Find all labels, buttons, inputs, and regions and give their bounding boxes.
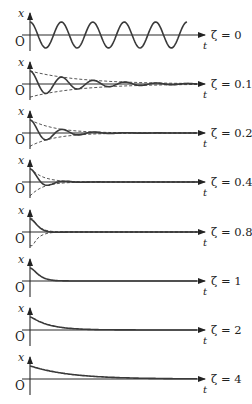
panel-zeta-1: xOtζ = 1 [15, 253, 242, 297]
t-axis-label: t [203, 335, 208, 346]
panel-zeta-0_4: xOtζ = 0.4 [15, 154, 252, 198]
origin-label: O [15, 379, 25, 393]
lower-envelope [30, 182, 198, 196]
upper-envelope [30, 120, 198, 133]
lower-envelope [30, 133, 198, 146]
zeta-label: ζ = 1 [211, 274, 242, 288]
t-axis-label: t [203, 384, 208, 395]
x-axis-label: x [18, 253, 25, 266]
t-axis-label: t [203, 286, 208, 297]
response-curve [30, 317, 197, 330]
zeta-label: ζ = 0.8 [211, 225, 252, 239]
response-curve [30, 268, 197, 281]
damping-response-figure: xOtζ = 0xOtζ = 0.1xOtζ = 0.2xOtζ = 0.4xO… [0, 0, 252, 404]
panel-zeta-0_2: xOtζ = 0.2 [15, 105, 252, 149]
zeta-label: ζ = 4 [211, 372, 242, 386]
t-axis-label: t [203, 138, 208, 149]
panel-zeta-2: xOtζ = 2 [15, 302, 242, 346]
t-axis-label: t [203, 40, 208, 51]
lower-envelope [30, 85, 198, 98]
zeta-label: ζ = 0 [211, 28, 242, 42]
lower-envelope [30, 232, 198, 246]
t-axis-label: t [203, 237, 208, 248]
zeta-label: ζ = 0.2 [211, 126, 252, 140]
panel-zeta-0_8: xOtζ = 0.8 [15, 204, 252, 248]
zeta-label: ζ = 2 [211, 323, 242, 337]
x-axis-label: x [18, 56, 25, 69]
response-curve [30, 169, 197, 185]
response-curve [30, 71, 197, 94]
origin-label: O [15, 35, 25, 49]
upper-envelope [30, 168, 198, 182]
panel-zeta-0: xOtζ = 0 [15, 7, 242, 51]
x-axis-label: x [18, 7, 25, 20]
x-axis-label: x [18, 105, 25, 118]
origin-label: O [15, 84, 25, 98]
origin-label: O [15, 182, 25, 196]
t-axis-label: t [203, 89, 208, 100]
origin-label: O [15, 232, 25, 246]
panel-zeta-4: xOtζ = 4 [15, 351, 242, 395]
zeta-label: ζ = 0.1 [211, 77, 252, 91]
response-curve [30, 366, 197, 379]
x-axis-label: x [18, 302, 25, 315]
t-axis-label: t [203, 187, 208, 198]
origin-label: O [15, 133, 25, 147]
response-curve [30, 219, 197, 232]
upper-envelope [30, 218, 198, 232]
zeta-label: ζ = 0.4 [211, 175, 252, 189]
origin-label: O [15, 281, 25, 295]
x-axis-label: x [18, 154, 25, 167]
x-axis-label: x [18, 204, 25, 217]
x-axis-label: x [18, 351, 25, 364]
panel-zeta-0_1: xOtζ = 0.1 [15, 56, 252, 100]
response-curve [30, 120, 197, 140]
origin-label: O [15, 330, 25, 344]
